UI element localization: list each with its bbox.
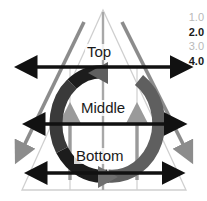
legend-item-2: 2.0 bbox=[189, 25, 204, 40]
tier-label-top: Top bbox=[85, 44, 113, 60]
legend-item-4: 4.0 bbox=[189, 54, 204, 69]
tier-label-bottom: Bottom bbox=[74, 148, 126, 164]
scale-legend: 1.0 2.0 3.0 4.0 bbox=[189, 10, 204, 68]
three-tier-triangle-cycle-diagram: Top Middle Bottom 1.0 2.0 3.0 4.0 bbox=[0, 0, 207, 201]
legend-item-1: 1.0 bbox=[189, 10, 204, 25]
tier-label-middle: Middle bbox=[79, 100, 127, 116]
legend-item-3: 3.0 bbox=[189, 39, 204, 54]
